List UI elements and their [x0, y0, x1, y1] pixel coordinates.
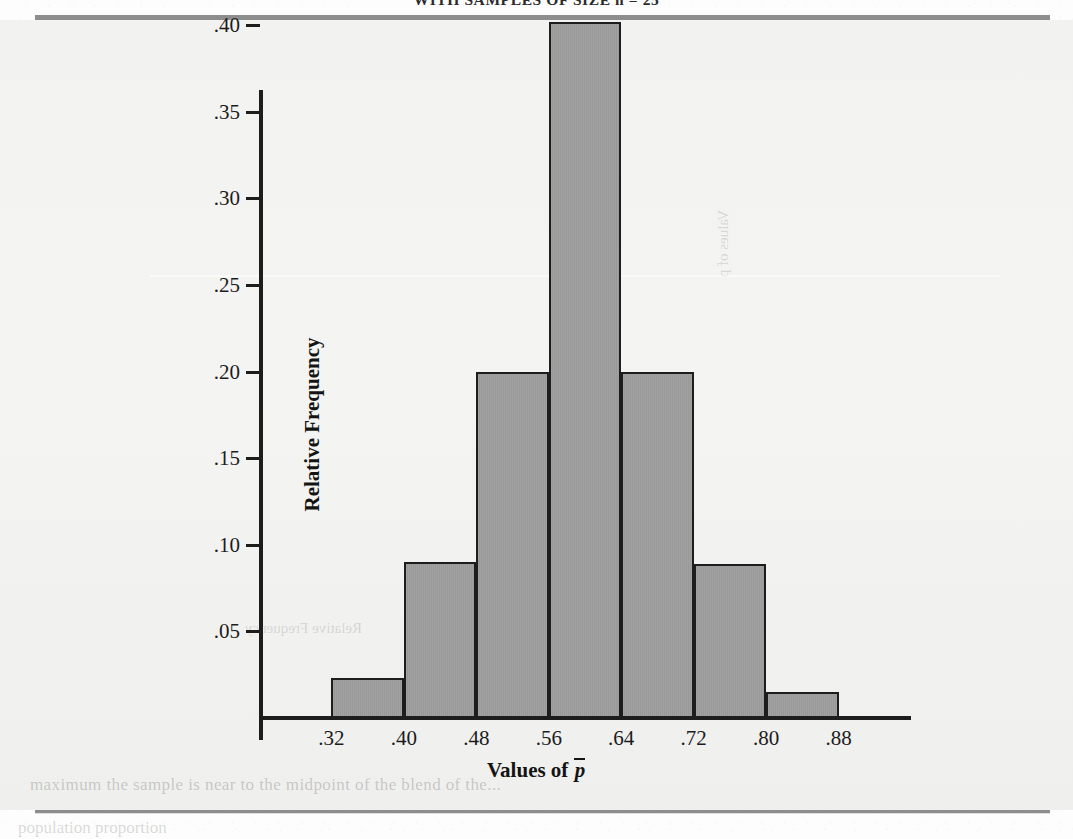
plot-area: Values of p Relative Frequency .05.10.15… [0, 20, 1073, 810]
y-axis-tick [246, 24, 260, 27]
footer-bleed-text: population proportion [18, 818, 167, 838]
p-bar-symbol: p [574, 758, 587, 783]
y-axis-tick [246, 371, 260, 374]
y-axis-tick [246, 544, 260, 547]
histogram-bar [766, 692, 838, 718]
y-axis-tick-label: .05 [188, 619, 240, 644]
histogram-bar [694, 564, 766, 718]
x-axis-tick-label: .32 [296, 726, 366, 751]
y-axis-tick-label: .10 [188, 533, 240, 558]
bleed-through-text-right: Values of p [715, 210, 732, 278]
y-axis-title: Relative Frequency [300, 265, 325, 585]
histogram-bar [621, 372, 693, 718]
x-axis-tick-label: .88 [804, 726, 874, 751]
histogram-bar [549, 22, 621, 718]
y-axis-tick-label: .40 [188, 13, 240, 38]
y-axis-tick-label: .20 [188, 360, 240, 385]
histogram-bar [404, 562, 476, 718]
y-axis-tick [246, 197, 260, 200]
x-axis-tick-label: .80 [731, 726, 801, 751]
scanned-page: WITH SAMPLES OF SIZE n = 25 Values of p … [0, 0, 1073, 839]
y-axis-title-holder: Relative Frequency [165, 20, 195, 810]
x-axis-tick-label: .56 [514, 726, 584, 751]
y-axis-tick-label: .35 [188, 100, 240, 125]
y-axis-tick [246, 111, 260, 114]
histogram-bar [331, 678, 403, 718]
y-axis-line [259, 90, 263, 740]
x-axis-tick-label: .40 [369, 726, 439, 751]
x-axis-tick-label: .48 [441, 726, 511, 751]
histogram-bar [476, 372, 548, 718]
caption-bleed-text: maximum the sample is near to the midpoi… [30, 775, 501, 795]
y-axis-tick [246, 284, 260, 287]
y-axis-tick-label: .15 [188, 446, 240, 471]
histogram-figure: Values of p Relative Frequency .05.10.15… [0, 20, 1073, 810]
y-axis-tick-label: .30 [188, 186, 240, 211]
x-axis-tick-label: .64 [586, 726, 656, 751]
y-axis-tick-label: .25 [188, 273, 240, 298]
x-axis-tick-label: .72 [659, 726, 729, 751]
y-axis-tick [246, 457, 260, 460]
y-axis-tick [246, 630, 260, 633]
running-head: WITH SAMPLES OF SIZE n = 25 [0, 0, 1073, 8]
